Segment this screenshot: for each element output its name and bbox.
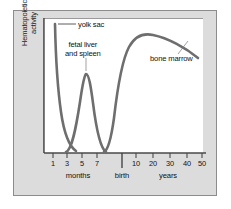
curve-bone-marrow (104, 34, 198, 152)
leader-line-bone-marrow (178, 41, 188, 54)
x-axis-caption-birth: birth (102, 172, 142, 180)
x-tick-label-40: 40 (180, 160, 194, 168)
x-axis-ticks-years (136, 153, 202, 158)
x-tick-label-5: 5 (75, 160, 89, 168)
curve-label-fetal-liver-line2: and spleen (65, 49, 101, 58)
curve-label-fetal-liver-spleen: fetal liver and spleen (65, 40, 101, 58)
curve-label-fetal-liver-line1: fetal liver (65, 40, 101, 49)
x-tick-label-30: 30 (163, 160, 177, 168)
hematopoiesis-figure: Hematopoietic activity yolk sac fetal li… (0, 0, 231, 209)
curve-label-bone-marrow: bone marrow (150, 54, 193, 63)
curve-label-yolk-sac: yolk sac (78, 20, 104, 29)
curve-fetal-liver-spleen (66, 74, 106, 152)
x-tick-label-1: 1 (46, 160, 60, 168)
x-tick-label-50: 50 (195, 160, 209, 168)
x-tick-label-7: 7 (90, 160, 104, 168)
x-tick-label-20: 20 (146, 160, 160, 168)
x-axis-caption-months: months (58, 172, 98, 180)
x-tick-label-10: 10 (129, 160, 143, 168)
x-tick-label-3: 3 (60, 160, 74, 168)
x-axis-ticks-months (53, 153, 97, 158)
x-axis-caption-years: years (148, 172, 188, 180)
